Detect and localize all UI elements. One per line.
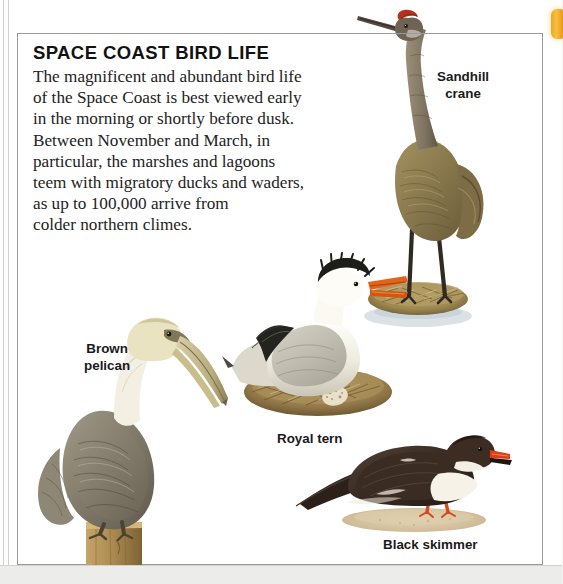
body-line: teem with migratory ducks and waders, <box>33 172 385 193</box>
body-line: Between November and March, in <box>33 130 385 151</box>
caption-line: Sandhill <box>437 68 489 85</box>
caption-royal-tern: Royal tern <box>277 430 342 447</box>
body-line: as up to 100,000 arrive from <box>33 193 385 214</box>
body-line: in the morning or shortly before dusk. <box>33 108 385 129</box>
body-line: of the Space Coast is best viewed early <box>33 87 385 108</box>
caption-line: pelican <box>84 357 130 374</box>
body-line: particular, the marshes and lagoons <box>33 151 385 172</box>
body-text: The magnificent and abundant bird life o… <box>33 66 385 236</box>
caption-line: crane <box>437 85 489 102</box>
section-tab-marker[interactable] <box>551 9 563 39</box>
body-line: The magnificent and abundant bird life <box>33 66 385 87</box>
illustration-royal-tern <box>222 252 412 427</box>
caption-line: Brown <box>84 340 130 357</box>
caption-brown-pelican: Brown pelican <box>84 340 130 374</box>
caption-sandhill-crane: Sandhill crane <box>437 68 489 102</box>
body-line: colder northern climes. <box>33 214 385 235</box>
page-gutter-line-outer <box>3 0 4 584</box>
page-gutter-line-inner <box>8 0 9 584</box>
illustration-brown-pelican <box>30 272 240 572</box>
page-bottom-margin <box>0 566 562 584</box>
caption-black-skimmer: Black skimmer <box>383 536 478 553</box>
page-title: SPACE COAST BIRD LIFE <box>33 42 393 64</box>
